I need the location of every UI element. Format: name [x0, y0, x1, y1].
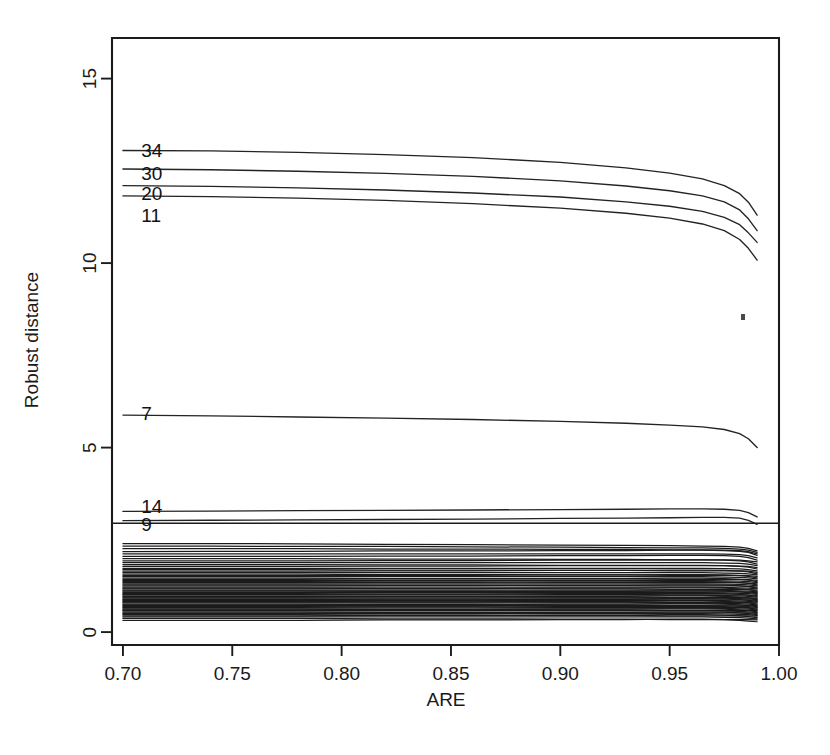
observation-label-20: 20	[141, 183, 162, 204]
x-tick-label-4: 0.90	[542, 663, 579, 684]
y-axis-ticks: 051015	[79, 68, 112, 637]
observation-label-11: 11	[141, 205, 161, 226]
series-trace-20	[123, 186, 757, 243]
series-trace-30	[123, 169, 757, 231]
bundle-traces-group	[123, 544, 757, 622]
bundle-trace-3	[123, 550, 757, 555]
x-tick-label-0: 0.70	[104, 663, 141, 684]
bundle-trace-61	[123, 619, 757, 622]
y-tick-label-3: 15	[79, 68, 100, 89]
observation-labels: 343020117149	[141, 140, 163, 536]
x-axis-ticks: 0.700.750.800.850.900.951.00	[104, 645, 797, 684]
y-tick-label-0: 0	[79, 627, 100, 638]
x-axis-title: ARE	[426, 689, 465, 710]
y-axis-title: Robust distance	[21, 272, 42, 408]
x-tick-label-6: 1.00	[761, 663, 798, 684]
bundle-trace-7	[123, 560, 757, 564]
observation-label-7: 7	[141, 403, 152, 424]
observation-label-30: 30	[141, 163, 162, 184]
scan-speck-artifact	[741, 314, 745, 320]
series-traces-group	[123, 151, 757, 525]
observation-label-34: 34	[141, 140, 163, 161]
chart-canvas: 0.700.750.800.850.900.951.00 051015 3430…	[0, 0, 830, 755]
x-tick-label-2: 0.80	[323, 663, 360, 684]
x-tick-label-1: 0.75	[214, 663, 251, 684]
series-trace-14	[123, 509, 757, 517]
robust-distance-figure: 0.700.750.800.850.900.951.00 051015 3430…	[0, 0, 830, 755]
x-tick-label-5: 0.95	[651, 663, 688, 684]
x-tick-label-3: 0.85	[432, 663, 469, 684]
series-trace-7	[123, 415, 757, 447]
y-tick-label-2: 10	[79, 253, 100, 274]
y-tick-label-1: 5	[79, 442, 100, 453]
observation-label-9: 9	[141, 514, 152, 535]
